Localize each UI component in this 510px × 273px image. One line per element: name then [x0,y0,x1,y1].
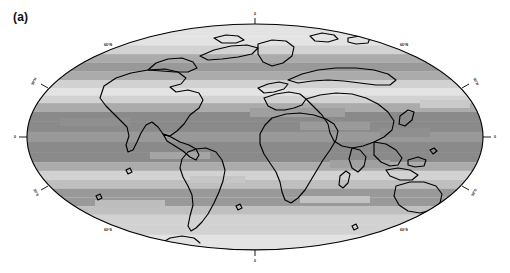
zonal-band-patch [420,100,470,108]
zonal-band [0,197,510,206]
lat-label-60n-left: 60°N [104,43,112,47]
lon-label-top: 0 [254,12,256,16]
zonal-band [0,81,510,89]
zonal-band [0,72,510,81]
zonal-band-patch [150,152,210,159]
zonal-band [0,171,510,180]
lat-label-60s-left: 60°S [104,228,112,232]
zonal-band-patch [300,196,370,203]
panel-label: (a) [13,10,28,24]
zonal-band-patch [190,176,245,183]
lon-label-bottom: 0 [254,259,256,263]
zonal-band [0,88,510,96]
zonal-band-patch [250,108,345,117]
zonal-band [0,132,510,142]
lat-label-0-right: 0 [494,135,496,139]
zonal-band-patch [95,200,165,207]
lat-label-60n-right: 60°N [400,43,408,47]
lat-label-60s-right: 60°S [400,228,408,232]
zonal-band-patch [380,128,430,137]
world-map-mollweide: 0 0 0 0 30°N 30°N 30°S 30°S 60°N 60°N 60… [0,0,510,273]
lat-label-0-left: 0 [14,135,16,139]
zonal-band [0,180,510,189]
zonal-band [0,188,510,197]
zonal-band [0,142,510,152]
zonal-band [0,162,510,171]
figure-panel: (a) [0,0,510,273]
